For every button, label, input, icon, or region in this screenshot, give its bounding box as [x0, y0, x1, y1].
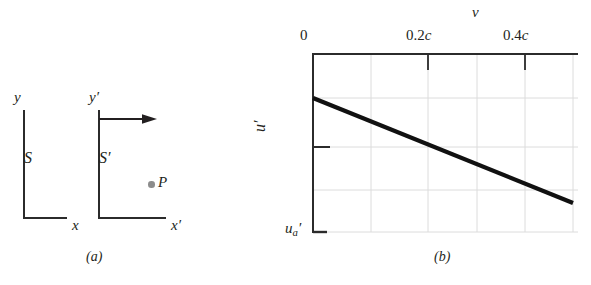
- chart-y-tick-ua-prime: ′: [298, 220, 301, 236]
- chart-data-line: [313, 98, 573, 203]
- chart-x-tick-label-1: 0.2c: [406, 28, 431, 43]
- chart-x-tick-label-2: 0.4c: [503, 28, 528, 43]
- chart-y-axis-title-prime: ′: [251, 121, 268, 125]
- chart-x-axis-title: v: [472, 5, 479, 20]
- chart-y-axis-title-base: u: [251, 124, 268, 132]
- panel-b-caption: (b): [434, 250, 450, 264]
- chart-gridlines-horizontal: [313, 98, 578, 232]
- relativity-figure: y S x y′ S′ x′ P (a): [0, 0, 591, 285]
- chart-y-tick-ua-base: u: [285, 220, 293, 236]
- chart-y-axis-title: u′: [252, 121, 268, 133]
- chart-x-tick-1-unit: c: [425, 27, 432, 43]
- chart-x-tick-label-0: 0: [300, 28, 308, 43]
- chart-x-tick-1-num: 0.2: [406, 27, 425, 43]
- chart-x-tick-2-unit: c: [522, 27, 529, 43]
- chart-gridlines-vertical: [371, 54, 573, 232]
- chart-y-tick-label-ua: ua′: [285, 221, 301, 238]
- chart-x-tick-2-num: 0.4: [503, 27, 522, 43]
- chart-x-tick-0-num: 0: [300, 27, 308, 43]
